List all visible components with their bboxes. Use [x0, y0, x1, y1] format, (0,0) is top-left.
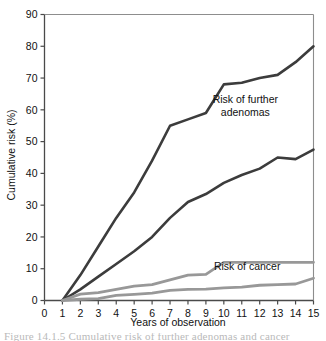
x-tick-label: 3 — [95, 307, 101, 319]
x-tick-label: 12 — [254, 307, 266, 319]
figure-caption-strip: Figure 14.1.5 Cumulative risk of further… — [0, 333, 326, 341]
y-tick-label: 50 — [26, 135, 38, 147]
series-annotation-label: adenomas — [221, 106, 270, 118]
x-tick-label: 4 — [113, 307, 119, 319]
y-tick-label: 60 — [26, 104, 38, 116]
cumulative-risk-line-chart: 0102030405060708090 01234567891011121314… — [0, 0, 326, 341]
x-tick-label: 14 — [290, 307, 302, 319]
y-axis-title: Cumulative risk (%) — [5, 109, 17, 200]
series-annotation-label: Risk of further — [213, 93, 279, 105]
series-annotation-label: Risk of cancer — [214, 260, 281, 272]
y-tick-label: 30 — [26, 199, 38, 211]
x-tick-label: 0 — [42, 307, 48, 319]
x-tick-label: 11 — [236, 307, 247, 319]
y-tick-label: 40 — [26, 167, 38, 179]
x-tick-label: 2 — [77, 307, 83, 319]
x-tick-label: 15 — [308, 307, 320, 319]
chart-figure: 0102030405060708090 01234567891011121314… — [0, 0, 326, 341]
x-tick-label: 1 — [60, 307, 66, 319]
y-tick-label: 70 — [26, 72, 38, 84]
x-tick-label: 13 — [272, 307, 284, 319]
y-tick-label: 0 — [32, 294, 38, 306]
y-tick-label: 20 — [26, 231, 38, 243]
x-axis-title: Years of observation — [130, 316, 226, 328]
y-tick-label: 10 — [26, 262, 38, 274]
figure-caption: Figure 14.1.5 Cumulative risk of further… — [4, 333, 290, 341]
y-tick-label: 80 — [26, 40, 38, 52]
y-tick-label: 90 — [26, 8, 38, 20]
chart-background — [0, 0, 326, 341]
